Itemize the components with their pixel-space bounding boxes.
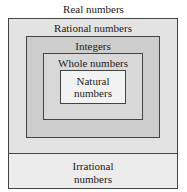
whole-numbers-box: Whole numbers Natural numbers [43,53,143,120]
whole-label: Whole numbers [44,57,142,69]
real-numbers-title: Real numbers [0,3,187,15]
irrational-label-line2: numbers [9,173,177,185]
irrational-region: Irrational numbers [9,153,177,188]
integers-box: Integers Whole numbers Natural numbers [26,36,160,138]
natural-label-line2: numbers [61,87,125,99]
natural-numbers-box: Natural numbers [60,70,126,104]
natural-label-line1: Natural [61,75,125,87]
irrational-label-line1: Irrational [9,160,177,172]
integers-label: Integers [27,40,159,52]
real-numbers-box: Rational numbers Integers Whole numbers … [8,18,178,189]
rational-label: Rational numbers [9,22,177,34]
